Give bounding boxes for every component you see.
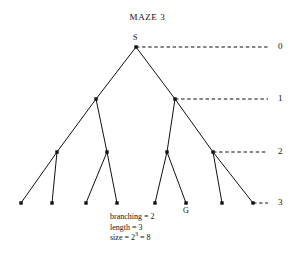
caption-block: branching = 2 length = 3 size = 23 = 8 xyxy=(110,212,155,244)
goal-node-label: G xyxy=(183,206,189,215)
tree-node xyxy=(165,150,168,153)
caption-size-prefix: size = 2 xyxy=(110,233,135,242)
tree-edge xyxy=(155,152,167,203)
caption-size: size = 23 = 8 xyxy=(110,233,155,244)
caption-size-suffix: = 8 xyxy=(138,233,151,242)
tree-node xyxy=(211,150,214,153)
depth-label-2: 2 xyxy=(278,146,283,156)
tree-edge xyxy=(52,152,57,203)
tree-edge xyxy=(213,152,222,203)
tree-node xyxy=(115,201,118,204)
tree-node xyxy=(220,201,223,204)
tree-edge xyxy=(136,47,175,99)
tree-node xyxy=(94,97,97,100)
caption-length: length = 3 xyxy=(110,223,155,234)
maze-tree-figure: MAZE 3 S G 0123 branching = 2 length = 3… xyxy=(0,0,295,264)
tree-node xyxy=(153,201,156,204)
tree-node xyxy=(19,201,22,204)
tree-node xyxy=(84,201,87,204)
depth-label-0: 0 xyxy=(278,41,283,51)
tree-edges xyxy=(21,47,253,203)
tree-edge xyxy=(96,47,136,99)
tree-edge xyxy=(107,152,117,203)
depth-label-1: 1 xyxy=(278,93,283,103)
tree-edge xyxy=(86,152,107,203)
tree-edge xyxy=(21,152,57,203)
tree-edge xyxy=(175,99,213,152)
tree-node xyxy=(105,150,108,153)
caption-branching: branching = 2 xyxy=(110,212,155,223)
tree-node xyxy=(184,201,187,204)
tree-edge xyxy=(57,99,96,152)
tree-node xyxy=(134,45,137,48)
tree-edge xyxy=(167,99,175,152)
tree-node xyxy=(55,150,58,153)
tree-edge xyxy=(96,99,107,152)
start-node-label: S xyxy=(133,33,137,42)
tree-node xyxy=(173,97,176,100)
tree-node xyxy=(251,201,254,204)
depth-guide-lines xyxy=(136,47,268,203)
tree-edge xyxy=(213,152,253,203)
tree-node xyxy=(50,201,53,204)
depth-label-3: 3 xyxy=(278,197,283,207)
tree-edge xyxy=(167,152,186,203)
